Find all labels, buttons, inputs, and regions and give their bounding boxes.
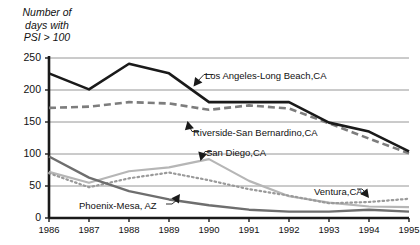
chart-plot-area <box>0 0 420 245</box>
y-tick-label: 150 <box>7 115 41 127</box>
series-label-phoenix: Phoenix-Mesa, AZ <box>79 200 157 211</box>
x-tick-label: 1987 <box>69 224 109 235</box>
y-tick-label: 50 <box>7 179 41 191</box>
series-label-san-diego: San Diego,CA <box>206 147 266 158</box>
annotation-arrow-phoenix <box>171 194 180 204</box>
series-label-riverside: Riverside-San Bernardino,CA <box>193 127 318 138</box>
chart-container: Number of days with PSI > 100 0501001502… <box>0 0 420 245</box>
x-tick-label: 1995 <box>389 224 420 235</box>
x-tick-label: 1989 <box>149 224 189 235</box>
y-tick-label: 200 <box>7 83 41 95</box>
annotation-arrow-los-angeles <box>194 77 203 87</box>
x-tick-label: 1990 <box>189 224 229 235</box>
x-tick-label: 1992 <box>269 224 309 235</box>
y-tick-label: 0 <box>7 211 41 223</box>
x-tick-label: 1994 <box>349 224 389 235</box>
series-label-ventura: Ventura,CA <box>314 186 363 197</box>
x-tick-label: 1988 <box>109 224 149 235</box>
y-tick-label: 250 <box>7 51 41 63</box>
series-label-los-angeles: Los Angeles-Long Beach,CA <box>205 70 326 81</box>
x-tick-label: 1993 <box>309 224 349 235</box>
x-tick-label: 1991 <box>229 224 269 235</box>
x-tick-label: 1986 <box>29 224 69 235</box>
y-tick-label: 100 <box>7 147 41 159</box>
